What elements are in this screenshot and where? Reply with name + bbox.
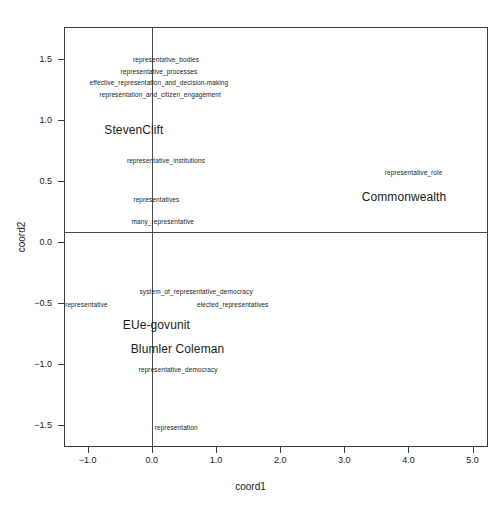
x-axis-tick (88, 447, 89, 453)
y-axis-tick-label: −1.5 (34, 420, 52, 431)
data-point-label: Commonwealth (362, 190, 447, 204)
y-axis-title: coord2 (16, 222, 27, 253)
data-point-label: representative_bodies (133, 55, 199, 62)
data-point-label: representative_institutions (127, 157, 205, 164)
y-axis-tick (58, 303, 64, 304)
x-axis-tick-label: −1.0 (79, 455, 97, 466)
y-axis-tick (58, 120, 64, 121)
horizontal-zero-reference-line (64, 232, 488, 233)
x-axis-tick-label: 3.0 (338, 455, 351, 466)
y-axis-tick (58, 242, 64, 243)
data-point-label: representative_processes (121, 67, 198, 74)
x-axis-tick-label: 4.0 (402, 455, 415, 466)
data-point-label: elected_representatives (197, 301, 268, 308)
data-point-label: effective_representation_and_decision-ma… (90, 78, 229, 85)
correspondence-analysis-plot: −1.00.01.02.03.04.05.01.51.00.50.0−0.5−1… (0, 0, 501, 509)
data-point-label: Blumler Coleman (131, 342, 225, 356)
y-axis-tick (58, 364, 64, 365)
y-axis-tick (58, 59, 64, 60)
y-axis-tick-label: −1.0 (34, 358, 52, 369)
x-axis-tick (152, 447, 153, 453)
y-axis-tick-label: 1.5 (39, 53, 52, 64)
data-point-label: representation (155, 424, 198, 431)
data-point-label: representative (65, 301, 108, 308)
data-point-label: representatives (133, 196, 179, 203)
data-point-label: representative_role (385, 169, 443, 176)
x-axis-tick-label: 2.0 (274, 455, 287, 466)
y-axis-tick-label: −0.5 (34, 297, 52, 308)
x-axis-title: coord1 (0, 481, 501, 492)
data-point-label: representation_and_citizen_engagement (99, 91, 221, 98)
y-axis-tick-label: 0.5 (39, 175, 52, 186)
data-point-label: many_representative (131, 218, 194, 225)
x-axis-tick (408, 447, 409, 453)
data-point-label: system_of_representative_democracy (140, 287, 253, 294)
x-axis-tick-label: 5.0 (466, 455, 479, 466)
data-point-label: EUe-govunit (123, 318, 190, 332)
data-point-label: StevenClift (104, 123, 163, 137)
y-axis-tick (58, 181, 64, 182)
data-point-label: representative_democracy (139, 365, 218, 372)
x-axis-tick (280, 447, 281, 453)
y-axis-tick (58, 425, 64, 426)
x-axis-tick (473, 447, 474, 453)
y-axis-tick-label: 1.0 (39, 114, 52, 125)
x-axis-tick (344, 447, 345, 453)
x-axis-tick-label: 0.0 (146, 455, 159, 466)
x-axis-tick-label: 1.0 (210, 455, 223, 466)
x-axis-tick (216, 447, 217, 453)
y-axis-tick-label: 0.0 (39, 236, 52, 247)
